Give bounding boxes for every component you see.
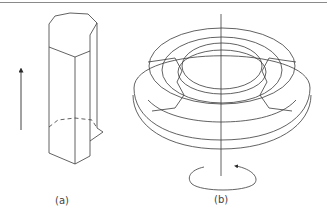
panel-b-label: (b) [214, 194, 228, 206]
panel-a-label: (a) [55, 195, 69, 207]
diagram-figure: (a) (b) [0, 0, 327, 215]
torus-shape [133, 28, 311, 149]
diagram-canvas [0, 0, 327, 215]
rotation-arrow-icon [189, 166, 256, 190]
prism-shape [49, 13, 103, 164]
